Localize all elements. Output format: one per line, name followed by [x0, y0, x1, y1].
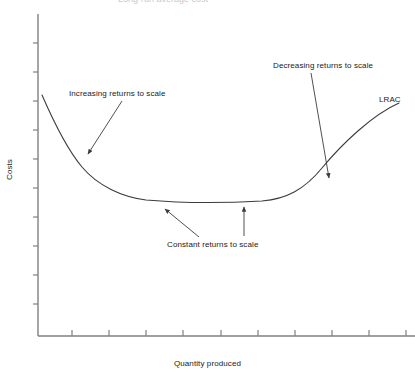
annotation-decreasing-returns: Decreasing returns to scale [273, 61, 373, 70]
lrac-curve [42, 95, 399, 202]
curve-label-lrac: LRAC [379, 95, 401, 104]
arrow-increasing-returns [88, 101, 122, 154]
arrow-constant-returns-left [165, 209, 199, 237]
x-axis-ticks [72, 330, 406, 336]
x-axis-label: Quantity produced [0, 359, 415, 368]
chart-figure: Long-run average cost [0, 0, 415, 372]
y-axis-ticks [33, 43, 38, 304]
annotation-increasing-returns: Increasing returns to scale [69, 89, 166, 98]
annotation-constant-returns: Constant returns to scale [167, 240, 258, 249]
y-axis [33, 14, 38, 336]
arrow-decreasing-returns [311, 73, 329, 178]
y-axis-label: Costs [5, 147, 14, 193]
chart-canvas [0, 0, 415, 372]
x-axis [38, 330, 415, 336]
